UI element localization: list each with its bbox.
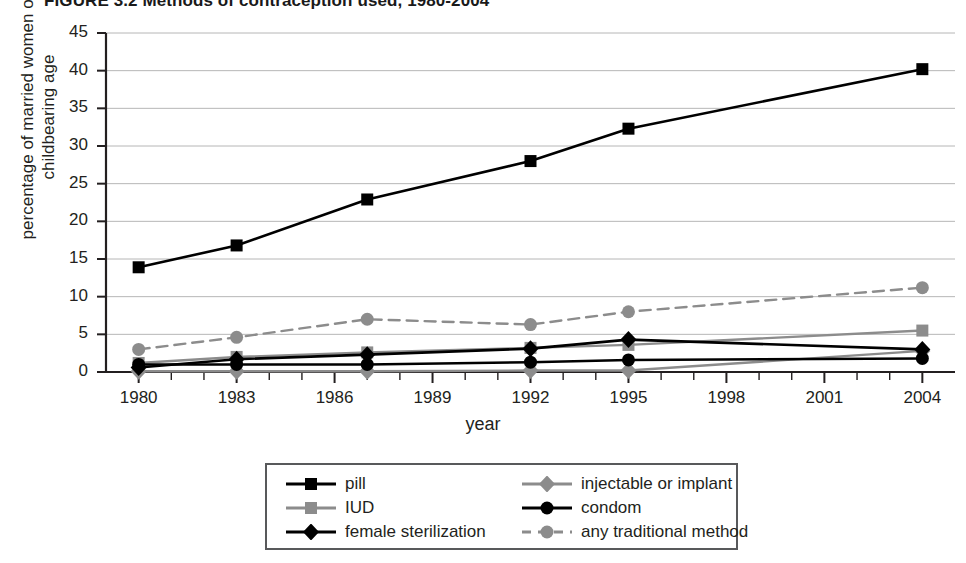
- x-tick-label: 1998: [691, 388, 761, 408]
- x-tick-label: 1992: [496, 388, 566, 408]
- y-tick-label: 45: [48, 22, 88, 42]
- data-point-marker: [916, 281, 929, 294]
- chart-plot-area: [0, 0, 966, 400]
- data-point-marker: [230, 331, 243, 344]
- x-tick-label: 1986: [300, 388, 370, 408]
- legend-item-injectable-or-implant[interactable]: injectable or implant: [521, 474, 757, 494]
- legend-item-condom[interactable]: condom: [521, 498, 757, 518]
- y-tick-label: 10: [48, 286, 88, 306]
- legend-swatch-diamond-icon: [521, 476, 573, 492]
- legend-label: female sterilization: [345, 522, 486, 542]
- legend-swatch-circle-icon: [521, 500, 573, 516]
- data-point-marker: [305, 502, 317, 514]
- data-point-marker: [622, 305, 635, 318]
- series-pill: [133, 63, 929, 273]
- data-point-marker: [539, 476, 555, 492]
- chart-legend: pillinjectable or implantIUDcondomfemale…: [265, 463, 738, 550]
- y-tick-label: 5: [48, 323, 88, 343]
- y-tick-label: 35: [48, 97, 88, 117]
- data-point-marker: [524, 318, 537, 331]
- data-point-marker: [622, 353, 635, 366]
- data-point-marker: [622, 123, 634, 135]
- legend-swatch-diamond-icon: [285, 524, 337, 540]
- data-point-marker: [303, 524, 319, 540]
- figure-root: FIGURE 3.2 Methods of contraception used…: [0, 0, 966, 563]
- data-point-marker: [916, 325, 928, 337]
- data-point-marker: [305, 478, 317, 490]
- legend-item-pill[interactable]: pill: [285, 474, 521, 494]
- legend-swatch-square-icon: [285, 500, 337, 516]
- legend-swatch-circle-icon: [521, 524, 573, 540]
- data-point-marker: [525, 155, 537, 167]
- legend-item-any-traditional-method[interactable]: any traditional method: [521, 522, 757, 542]
- x-tick-label: 2004: [887, 388, 957, 408]
- legend-label: any traditional method: [581, 522, 748, 542]
- data-point-marker: [361, 193, 373, 205]
- y-tick-label: 0: [48, 361, 88, 381]
- data-point-marker: [132, 343, 145, 356]
- x-tick-label: 1980: [104, 388, 174, 408]
- y-tick-label: 15: [48, 248, 88, 268]
- legend-swatch-square-icon: [285, 476, 337, 492]
- y-tick-label: 25: [48, 173, 88, 193]
- legend-label: pill: [345, 474, 366, 494]
- y-tick-label: 30: [48, 135, 88, 155]
- legend-label: condom: [581, 498, 641, 518]
- data-point-marker: [524, 356, 537, 369]
- x-tick-label: 1983: [202, 388, 272, 408]
- data-point-marker: [541, 502, 554, 515]
- series-line: [139, 69, 923, 267]
- data-point-marker: [916, 63, 928, 75]
- y-tick-label: 40: [48, 60, 88, 80]
- legend-label: injectable or implant: [581, 474, 732, 494]
- x-tick-label: 2001: [789, 388, 859, 408]
- data-point-marker: [361, 313, 374, 326]
- y-tick-label: 20: [48, 210, 88, 230]
- legend-item-female-sterilization[interactable]: female sterilization: [285, 522, 521, 542]
- legend-item-IUD[interactable]: IUD: [285, 498, 521, 518]
- x-tick-label: 1995: [593, 388, 663, 408]
- data-point-marker: [133, 261, 145, 273]
- x-tick-label: 1989: [398, 388, 468, 408]
- legend-label: IUD: [345, 498, 374, 518]
- x-axis-title: year: [0, 414, 966, 435]
- data-point-marker: [541, 526, 554, 539]
- data-point-marker: [231, 239, 243, 251]
